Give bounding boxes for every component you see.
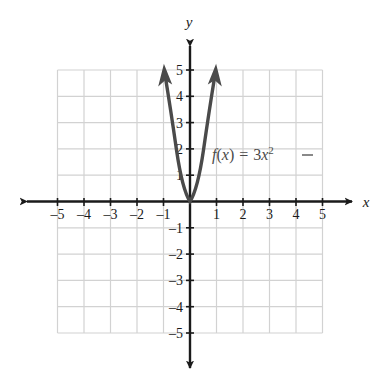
function-label-text: f(x)=3x2: [212, 144, 274, 164]
x-axis-label: x: [362, 194, 370, 210]
x-tick-label: –3: [103, 207, 118, 222]
y-tick-label: –5: [168, 326, 183, 341]
x-tick-label: –4: [76, 207, 91, 222]
x-tick-label: –2: [129, 207, 144, 222]
function-label-x: x: [221, 146, 229, 163]
x-tick-label: 1: [213, 207, 220, 222]
x-tick-labels: –5 –4 –3 –2 –1 1 2 3 4 5: [50, 207, 327, 222]
function-label: f(x)=3x2: [212, 144, 313, 164]
y-tick-label: 3: [176, 116, 183, 131]
function-label-exponent: 2: [268, 144, 274, 156]
x-tick-label: 4: [293, 207, 300, 222]
function-label-paren-close: ): [229, 146, 234, 164]
function-label-coef: 3: [253, 146, 261, 163]
axes-group: [27, 46, 352, 368]
graph-figure: –5 –4 –3 –2 –1 1 2 3 4 5 5 4 3 2 1 –1 –2…: [0, 0, 384, 390]
x-tick-label: –1: [156, 207, 171, 222]
x-tick-label: 5: [319, 207, 326, 222]
function-label-var: x: [260, 146, 268, 163]
x-tick-label: –5: [50, 207, 65, 222]
y-tick-label: –4: [168, 300, 183, 315]
y-tick-label: 4: [176, 89, 183, 104]
x-tick-label: 3: [266, 207, 273, 222]
y-tick-label: –1: [168, 221, 183, 236]
function-label-equals: =: [239, 146, 248, 163]
y-tick-label: –3: [168, 273, 183, 288]
y-tick-label: 5: [176, 63, 183, 78]
y-axis-label: y: [184, 14, 193, 30]
x-tick-label: 2: [240, 207, 247, 222]
coordinate-plane-svg: –5 –4 –3 –2 –1 1 2 3 4 5 5 4 3 2 1 –1 –2…: [0, 0, 384, 390]
y-tick-label: –2: [168, 247, 183, 262]
